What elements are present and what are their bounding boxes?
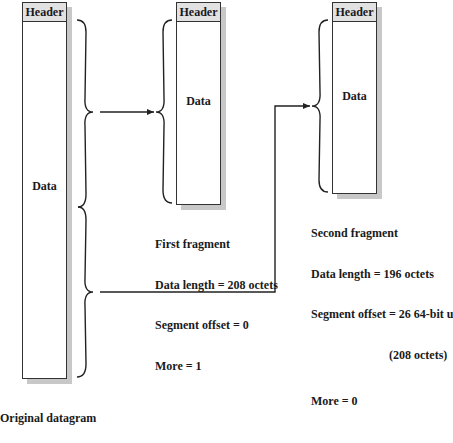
brace-second-fragment <box>312 20 328 192</box>
second-fragment-caption-offset: Segment offset = 26 64-bit units <box>311 308 453 322</box>
brace-original-lower <box>77 207 93 377</box>
brace-first-fragment <box>156 20 172 203</box>
brace-original-upper <box>77 20 93 207</box>
first-fragment-caption: First fragment Data length = 208 octets … <box>155 211 278 387</box>
second-fragment-caption-length: Data length = 196 octets <box>311 268 453 282</box>
second-fragment-caption-offset-note: (208 octets) <box>311 349 453 363</box>
original-caption-title: Original datagram <box>0 412 123 426</box>
first-fragment-caption-title: First fragment <box>155 238 278 252</box>
first-fragment-caption-more: More = 1 <box>155 360 278 374</box>
original-caption: Original datagram Data length = 404 octe… <box>0 385 123 443</box>
second-fragment-caption-title: Second fragment <box>311 227 453 241</box>
first-fragment-caption-length: Data length = 208 octets <box>155 279 278 293</box>
second-fragment-caption-more: More = 0 <box>311 395 453 409</box>
second-fragment-caption: Second fragment Data length = 196 octets… <box>311 200 453 422</box>
first-fragment-caption-offset: Segment offset = 0 <box>155 319 278 333</box>
